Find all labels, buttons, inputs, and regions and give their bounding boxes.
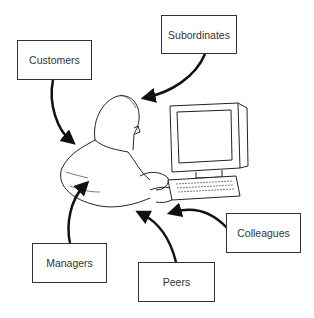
- label-box-customers: Customers: [17, 40, 92, 80]
- label-box-subordinates: Subordinates: [161, 15, 237, 54]
- arrow-peers: [142, 214, 176, 262]
- arrow-colleagues: [174, 210, 227, 228]
- computer-illustration: [168, 103, 248, 200]
- person-illustration: [61, 95, 178, 207]
- arrow-customers: [52, 80, 70, 140]
- label-box-colleagues: Colleagues: [226, 213, 301, 253]
- arrow-subordinates: [148, 54, 205, 97]
- label-box-managers: Managers: [32, 243, 107, 283]
- label-box-peers: Peers: [138, 262, 215, 302]
